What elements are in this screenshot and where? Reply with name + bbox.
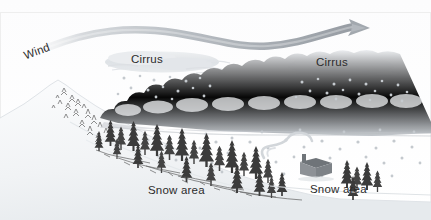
label-cirrus-left: Cirrus xyxy=(131,53,163,65)
cabin-shadow xyxy=(298,177,334,182)
label-snow-area-right: Snow area xyxy=(310,183,367,195)
label-cirrus-right: Cirrus xyxy=(316,56,348,68)
label-snow-area-left: Snow area xyxy=(148,184,205,196)
diagram-canvas: Wind Cirrus Cirrus Snow area Snow area xyxy=(0,0,431,220)
